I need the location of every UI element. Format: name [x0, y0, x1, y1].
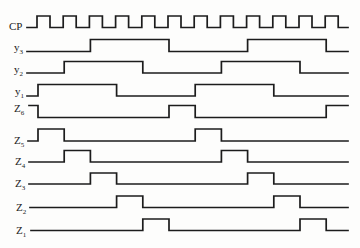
label-y1: y1 — [15, 85, 25, 100]
label-z1: Z1 — [16, 224, 27, 239]
row-y3: y3 — [14, 40, 348, 56]
waveform-z5 — [28, 129, 348, 141]
label-cp: CP — [9, 20, 22, 32]
label-y2: y2 — [14, 63, 24, 78]
row-z1: Z1 — [16, 219, 348, 239]
row-z6: Z6 — [14, 102, 348, 118]
waveform-z6 — [29, 106, 348, 118]
waveform-z2 — [30, 196, 348, 208]
label-z5: Z5 — [14, 134, 25, 149]
label-z6: Z6 — [14, 102, 25, 117]
row-cp: CP — [9, 16, 348, 32]
row-z5: Z5 — [14, 129, 348, 149]
waveform-y3 — [27, 40, 348, 52]
waveform-z4 — [29, 151, 348, 163]
waveform-y2 — [27, 62, 348, 74]
row-z2: Z2 — [16, 196, 348, 216]
label-z3: Z3 — [15, 177, 26, 192]
label-z2: Z2 — [16, 201, 27, 216]
waveform-y1 — [27, 85, 348, 97]
row-y1: y1 — [15, 85, 348, 100]
row-z4: Z4 — [15, 151, 348, 170]
row-z3: Z3 — [15, 173, 348, 192]
waveform-z3 — [29, 173, 348, 184]
waveform-z1 — [31, 219, 348, 231]
label-y3: y3 — [14, 41, 24, 56]
waveform-cp — [27, 16, 348, 28]
timing-diagram: CP y3 y2 y1 Z6 Z5 Z4 Z3 Z2 Z1 — [0, 0, 360, 248]
row-y2: y2 — [14, 62, 348, 78]
label-z4: Z4 — [15, 155, 26, 170]
